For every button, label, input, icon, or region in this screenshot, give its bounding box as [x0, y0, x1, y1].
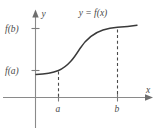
y-value-label-upper: f(b): [5, 24, 19, 35]
x-axis-arrow-icon: [145, 94, 153, 100]
y-axis-label: y: [41, 9, 47, 19]
function-curve: [36, 25, 137, 74]
y-value-label-lower: f(a): [5, 66, 19, 77]
figure-container: y x f(b) f(a) a b y = f(x): [0, 0, 165, 132]
x-tick-label-b: b: [115, 104, 120, 114]
curve-equation-label: y = f(x): [78, 8, 108, 19]
x-tick-label-a: a: [56, 104, 61, 114]
x-axis-label: x: [145, 85, 151, 95]
y-axis-arrow-icon: [32, 10, 38, 18]
math-figure: y x f(b) f(a) a b y = f(x): [0, 0, 165, 132]
